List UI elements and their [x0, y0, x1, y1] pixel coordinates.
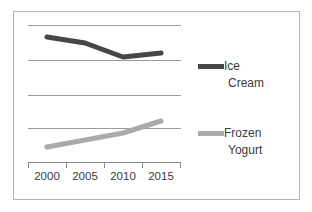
legend-label-ice-cream-line2: Cream [228, 75, 264, 92]
legend-label-ice-cream: Ice Cream [224, 58, 264, 92]
legend-label-frozen-yogurt-line1: Frozen [224, 126, 261, 140]
x-tick-label-2015: 2015 [142, 170, 180, 182]
x-tick-label-2000: 2000 [28, 170, 66, 182]
legend-label-frozen-yogurt: Frozen Yogurt [224, 125, 262, 159]
legend-swatch-ice-cream [198, 64, 224, 69]
x-axis [28, 163, 181, 169]
gridlines [28, 26, 181, 129]
legend-item-ice-cream[interactable]: Ice Cream [198, 58, 264, 92]
series-line-ice-cream [47, 37, 161, 57]
x-tick-label-2005: 2005 [66, 170, 104, 182]
legend-item-frozen-yogurt[interactable]: Frozen Yogurt [198, 125, 262, 159]
chart-figure: 2000 2005 2010 2015 Ice Cream Frozen Yog… [0, 0, 312, 212]
legend-label-ice-cream-line1: Ice [224, 59, 240, 73]
legend-label-frozen-yogurt-line2: Yogurt [228, 142, 262, 159]
x-tick-label-2010: 2010 [104, 170, 142, 182]
series-line-frozen-yogurt [47, 121, 161, 147]
legend-swatch-frozen-yogurt [198, 131, 224, 136]
